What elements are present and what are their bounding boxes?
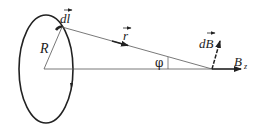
svg-text:B: B <box>234 54 242 69</box>
position-vector-line <box>62 27 212 69</box>
label-dl: dl <box>60 10 72 26</box>
label-angle: φ <box>155 56 163 70</box>
svg-text:r: r <box>123 28 129 43</box>
label-r: r <box>123 28 131 43</box>
label-dB: dB <box>199 33 215 51</box>
svg-text:dl: dl <box>60 11 71 26</box>
label-radius: R <box>39 41 49 56</box>
biot-savart-loop-diagram: dl R r φ dB B z <box>0 0 257 133</box>
label-Bz: B z <box>234 54 248 71</box>
svg-text:dB: dB <box>199 36 214 51</box>
svg-text:z: z <box>243 62 248 71</box>
